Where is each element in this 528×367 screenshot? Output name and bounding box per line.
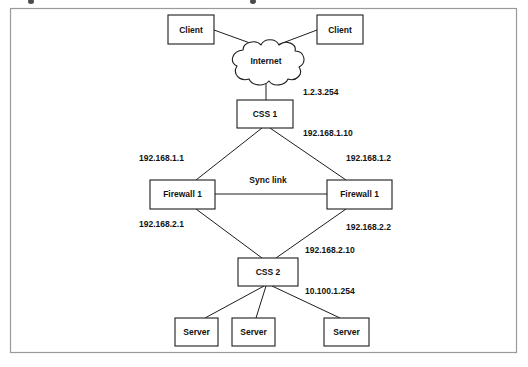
client-left-label: Client bbox=[179, 25, 203, 35]
link-firewall-left-to-css2 bbox=[196, 209, 262, 258]
ip-label-firewall-right-upper: 192.168.1.2 bbox=[346, 153, 391, 163]
firewall-right-label: Firewall 1 bbox=[340, 189, 379, 199]
network-diagram-figure: Client Client Internet CSS 1 Firewall 1 … bbox=[0, 0, 528, 367]
node-css1: CSS 1 bbox=[237, 100, 293, 128]
ip-label-css2-upper: 192.168.2.10 bbox=[305, 245, 355, 255]
client-right-label: Client bbox=[328, 25, 352, 35]
node-server-1: Server bbox=[175, 318, 218, 346]
ip-label-firewall-right-lower: 192.168.2.2 bbox=[346, 222, 391, 232]
firewall-left-label: Firewall 1 bbox=[163, 189, 202, 199]
internet-label: Internet bbox=[250, 56, 281, 66]
node-css2: CSS 2 bbox=[238, 258, 298, 286]
node-internet-cloud: Internet bbox=[232, 40, 303, 85]
ip-label-css2-lower: 10.100.1.254 bbox=[305, 286, 355, 296]
node-server-3: Server bbox=[324, 318, 369, 346]
css2-label: CSS 2 bbox=[256, 267, 281, 277]
node-client-left: Client bbox=[168, 15, 214, 44]
link-css2-to-server-2 bbox=[256, 286, 266, 318]
sync-link-label: Sync link bbox=[249, 175, 287, 185]
edge-labels: Sync link bbox=[249, 175, 287, 185]
node-server-2: Server bbox=[232, 318, 275, 346]
server-1-label: Server bbox=[183, 327, 210, 337]
css1-label: CSS 1 bbox=[253, 109, 278, 119]
link-css2-to-server-1 bbox=[205, 286, 264, 318]
diagram-canvas: Client Client Internet CSS 1 Firewall 1 … bbox=[0, 0, 528, 367]
ip-label-css1-outside: 1.2.3.254 bbox=[303, 87, 339, 97]
node-firewall-left: Firewall 1 bbox=[150, 180, 215, 209]
link-css1-to-firewall-left bbox=[196, 128, 262, 180]
ip-label-firewall-left-upper: 192.168.1.1 bbox=[139, 153, 184, 163]
node-firewall-right: Firewall 1 bbox=[327, 180, 392, 209]
ip-label-firewall-left-lower: 192.168.2.1 bbox=[139, 219, 184, 229]
ip-label-css1-inside: 192.168.1.10 bbox=[303, 128, 353, 138]
node-client-right: Client bbox=[317, 15, 363, 44]
server-2-label: Server bbox=[240, 327, 267, 337]
server-3-label: Server bbox=[333, 327, 360, 337]
